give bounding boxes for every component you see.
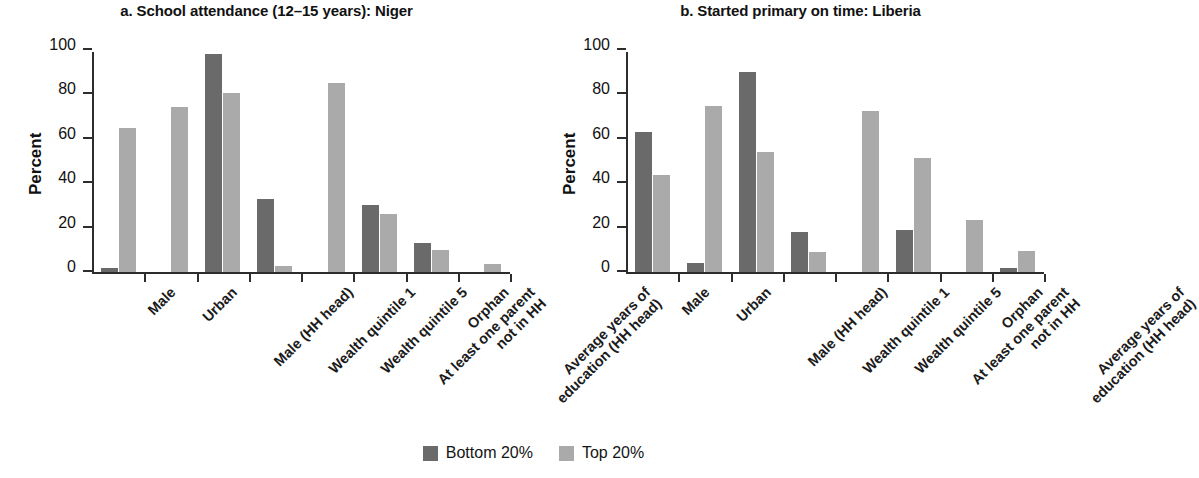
x-tick: [887, 274, 889, 282]
bar: [432, 250, 449, 272]
bar: [205, 54, 222, 272]
bar: [414, 243, 431, 272]
x-tick: [678, 274, 680, 282]
x-tick: [1044, 274, 1046, 282]
x-tick: [144, 274, 146, 282]
bar-group: [1000, 50, 1035, 272]
panel-b-y-axis-line: [626, 52, 628, 274]
x-axis-category-label: Male: [679, 284, 713, 318]
x-tick: [783, 274, 785, 282]
y-tick: 80: [83, 92, 92, 94]
x-tick: [458, 274, 460, 282]
bar: [328, 83, 345, 272]
y-tick: 80: [617, 92, 626, 94]
x-tick: [353, 274, 355, 282]
bar: [635, 132, 652, 272]
bar: [653, 175, 670, 272]
bar: [1000, 268, 1017, 272]
y-tick: 0: [617, 270, 626, 272]
y-tick: 100: [617, 48, 626, 50]
y-tick: 40: [617, 181, 626, 183]
x-axis-category-label: Urban: [200, 284, 241, 325]
y-tick: 100: [83, 48, 92, 50]
panel-a-category-labels: MaleUrbanMale (HH head)Wealth quintile 1…: [92, 282, 532, 432]
legend-item: Top 20%: [559, 444, 644, 462]
panel-a-title: a. School attendance (12–15 years): Nige…: [0, 2, 533, 19]
bar-group: [153, 50, 188, 272]
bar: [914, 158, 931, 272]
bar-group: [635, 50, 670, 272]
panel-a-plot-area: 020406080100: [92, 46, 510, 274]
bar: [896, 230, 913, 272]
panel-b-plot-area: 020406080100: [626, 46, 1044, 274]
x-tick: [731, 274, 733, 282]
bar-group: [791, 50, 826, 272]
x-tick: [940, 274, 942, 282]
bar-group: [466, 50, 501, 272]
y-tick-label: 20: [592, 214, 610, 232]
x-axis-category-label: Male: [145, 284, 179, 318]
y-tick-label: 80: [58, 80, 76, 98]
bar: [380, 214, 397, 272]
y-tick-label: 40: [592, 169, 610, 187]
bar-group: [362, 50, 397, 272]
bar-group: [205, 50, 240, 272]
x-axis-category-label: Urban: [734, 284, 775, 325]
y-tick-label: 100: [49, 36, 76, 54]
y-tick: 40: [83, 181, 92, 183]
bar: [966, 220, 983, 272]
bar: [687, 263, 704, 272]
bar: [739, 72, 756, 272]
y-tick-label: 20: [58, 214, 76, 232]
legend-item: Bottom 20%: [423, 444, 533, 462]
x-axis-category-label: Average years ofeducation (HH head): [1076, 284, 1199, 407]
panel-a-y-axis-title: Percent: [26, 133, 46, 195]
bar-group: [896, 50, 931, 272]
legend-label: Top 20%: [582, 444, 644, 462]
bar: [1018, 251, 1035, 272]
bar-group: [101, 50, 136, 272]
chart-legend: Bottom 20%Top 20%: [0, 444, 1067, 462]
y-tick: 20: [617, 226, 626, 228]
legend-label: Bottom 20%: [446, 444, 533, 462]
bar: [171, 107, 188, 272]
x-tick: [510, 274, 512, 282]
panel-a-niger: a. School attendance (12–15 years): Nige…: [0, 0, 533, 430]
legend-swatch-bottom20: [423, 446, 438, 461]
panel-b-y-axis-title: Percent: [560, 133, 580, 195]
bar: [257, 199, 274, 272]
panel-b-category-labels: MaleUrbanMale (HH head)Wealth quintile 1…: [626, 282, 1066, 432]
bar-group: [310, 50, 345, 272]
bar: [757, 152, 774, 272]
x-tick: [249, 274, 251, 282]
bar: [275, 266, 292, 272]
bar: [791, 232, 808, 272]
bar-group: [948, 50, 983, 272]
bar: [362, 205, 379, 272]
y-tick: 0: [83, 270, 92, 272]
bar-group: [739, 50, 774, 272]
bar: [119, 128, 136, 272]
x-tick: [835, 274, 837, 282]
bar-group: [687, 50, 722, 272]
legend-swatch-top20: [559, 446, 574, 461]
bar-group: [414, 50, 449, 272]
y-tick-label: 100: [583, 36, 610, 54]
bar: [862, 111, 879, 272]
bar: [484, 264, 501, 272]
y-tick: 20: [83, 226, 92, 228]
y-tick-label: 80: [592, 80, 610, 98]
x-tick: [197, 274, 199, 282]
panel-a-y-axis-line: [92, 52, 94, 274]
x-tick: [301, 274, 303, 282]
panel-b-liberia: b. Started primary on time: Liberia Perc…: [534, 0, 1067, 430]
y-tick-label: 0: [67, 258, 76, 276]
bar-group: [257, 50, 292, 272]
bar-group: [844, 50, 879, 272]
y-tick: 60: [83, 137, 92, 139]
y-tick-label: 0: [601, 258, 610, 276]
y-tick-label: 60: [58, 125, 76, 143]
bar: [809, 252, 826, 272]
bar: [705, 106, 722, 273]
